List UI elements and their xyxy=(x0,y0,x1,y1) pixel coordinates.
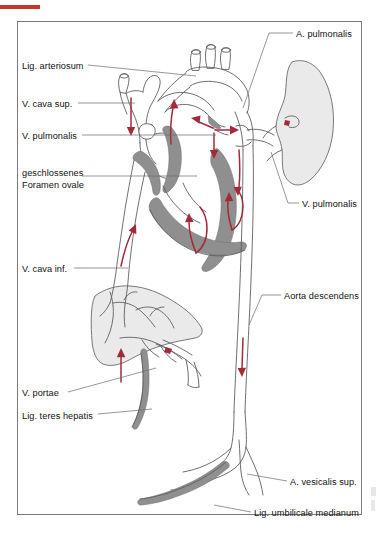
accent-rule xyxy=(0,5,40,9)
label-v-cava-inf: V. cava inf. xyxy=(22,264,67,276)
scan-artifact xyxy=(371,487,376,496)
label-lig-teres-hepatis: Lig. teres hepatis xyxy=(22,411,93,423)
label-aorta-descendens: Aorta descendens xyxy=(284,291,359,303)
label-lig-umbilicale-medianum: Lig. umbilicale medianum xyxy=(254,508,359,520)
label-v-pulmonalis-right: V. pulmonalis xyxy=(302,199,357,211)
label-geschlossenes-foramen-ovale: geschlossenes Foramen ovale xyxy=(22,168,84,191)
label-v-portae: V. portae xyxy=(22,388,59,400)
label-lig-arteriosum: Lig. arteriosum xyxy=(22,61,84,73)
label-v-pulmonalis-left: V. pulmonalis xyxy=(22,131,77,143)
label-v-cava-sup: V. cava sup. xyxy=(22,99,72,111)
label-a-vesicalis-sup: A. vesicalis sup. xyxy=(290,477,357,489)
plate-frame xyxy=(17,21,362,515)
scan-artifact xyxy=(371,500,375,511)
figure-page: .ol { fill:none; stroke:#5f5f5f; stroke-… xyxy=(0,0,384,542)
label-a-pulmonalis: A. pulmonalis xyxy=(296,29,352,41)
